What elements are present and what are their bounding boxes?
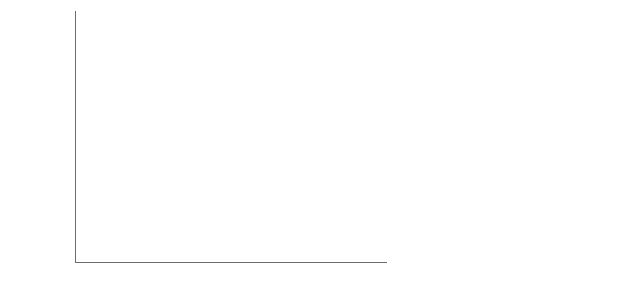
y-axis-line	[75, 11, 76, 263]
legend-item-illicit	[396, 108, 611, 119]
legend-item-marijuana	[396, 127, 611, 138]
legend-swatch-marijuana	[396, 127, 407, 138]
legend-swatch-illicit	[396, 108, 407, 119]
chart-legend	[396, 108, 611, 146]
chart-plot-area	[76, 12, 376, 262]
y-axis-label	[0, 0, 58, 262]
x-axis-line	[75, 262, 387, 263]
